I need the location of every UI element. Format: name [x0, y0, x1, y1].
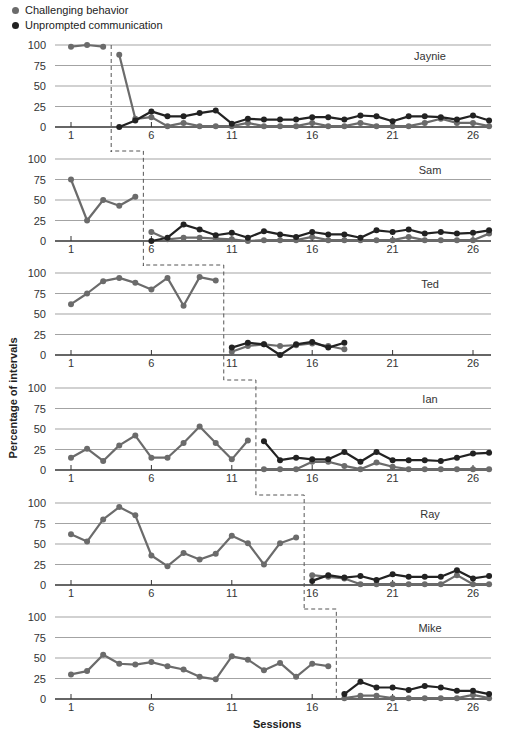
data-point: [422, 113, 428, 119]
data-point: [390, 118, 396, 124]
x-tick-label: 11: [226, 129, 237, 141]
participant-name: Ian: [422, 393, 437, 405]
data-point: [148, 108, 154, 114]
data-point: [341, 449, 347, 455]
y-tick-label: 100: [28, 267, 46, 279]
challenging-behavior-line: [71, 427, 248, 461]
x-tick-label: 26: [467, 357, 479, 369]
data-point: [261, 438, 267, 444]
data-point: [68, 44, 74, 50]
panel-mike: 02550751001611162126Mike: [28, 611, 492, 713]
data-point: [293, 123, 299, 129]
data-point: [341, 575, 347, 581]
data-point: [100, 652, 106, 658]
y-tick-label: 75: [34, 288, 46, 300]
data-point: [116, 661, 122, 667]
data-point: [357, 459, 363, 465]
x-tick-label: 11: [226, 587, 237, 599]
y-tick-label: 25: [34, 101, 46, 113]
x-tick-label: 11: [226, 357, 237, 369]
data-point: [197, 274, 203, 280]
data-point: [422, 574, 428, 580]
data-point: [213, 232, 219, 238]
y-tick-label: 25: [34, 559, 46, 571]
data-point: [68, 177, 74, 183]
data-point: [116, 124, 122, 130]
data-point: [68, 455, 74, 461]
data-point: [245, 340, 251, 346]
data-point: [341, 346, 347, 352]
x-tick-label: 26: [467, 701, 479, 713]
data-point: [406, 574, 412, 580]
data-point: [406, 466, 412, 472]
data-point: [438, 114, 444, 120]
data-point: [261, 117, 267, 123]
data-point: [357, 573, 363, 579]
x-tick-label: 26: [467, 243, 479, 255]
data-point: [261, 562, 267, 568]
data-point: [261, 466, 267, 472]
y-tick-label: 0: [40, 693, 46, 705]
data-point: [197, 227, 203, 233]
data-point: [309, 339, 315, 345]
y-tick-label: 75: [34, 632, 46, 644]
data-point: [438, 695, 444, 701]
x-tick-label: 26: [467, 472, 479, 484]
y-tick-label: 50: [34, 80, 46, 92]
data-point: [374, 449, 380, 455]
data-point: [406, 695, 412, 701]
x-tick-label: 6: [148, 129, 154, 141]
data-point: [277, 540, 283, 546]
data-point: [164, 275, 170, 281]
data-point: [293, 341, 299, 347]
y-tick-label: 25: [34, 329, 46, 341]
data-point: [116, 203, 122, 209]
data-point: [309, 578, 315, 584]
data-point: [197, 424, 203, 430]
y-tick-label: 100: [28, 497, 46, 509]
data-point: [374, 227, 380, 233]
data-point: [213, 277, 219, 283]
x-tick-label: 16: [306, 357, 318, 369]
data-point: [486, 581, 492, 587]
x-tick-label: 6: [148, 587, 154, 599]
data-point: [438, 237, 444, 243]
participant-name: Mike: [418, 622, 441, 634]
data-point: [357, 235, 363, 241]
data-point: [197, 110, 203, 116]
data-point: [148, 455, 154, 461]
data-point: [470, 237, 476, 243]
data-point: [470, 575, 476, 581]
data-point: [245, 540, 251, 546]
data-point: [454, 567, 460, 573]
data-point: [374, 123, 380, 129]
data-point: [293, 466, 299, 472]
data-point: [68, 531, 74, 537]
data-point: [116, 504, 122, 510]
data-point: [325, 572, 331, 578]
data-point: [229, 236, 235, 242]
data-point: [438, 229, 444, 235]
data-point: [470, 688, 476, 694]
data-point: [390, 229, 396, 235]
data-point: [116, 52, 122, 58]
y-tick-label: 50: [34, 308, 46, 320]
x-tick-label: 21: [386, 357, 398, 369]
data-point: [197, 674, 203, 680]
y-tick-label: 100: [28, 382, 46, 394]
data-point: [486, 117, 492, 123]
participant-name: Jaynie: [414, 50, 446, 62]
x-tick-label: 6: [148, 472, 154, 484]
x-tick-label: 1: [68, 243, 74, 255]
data-point: [374, 237, 380, 243]
data-point: [148, 286, 154, 292]
phase-change-line: [111, 45, 336, 699]
data-point: [213, 123, 219, 129]
data-point: [181, 235, 187, 241]
x-tick-label: 1: [68, 357, 74, 369]
data-point: [132, 117, 138, 123]
data-point: [261, 237, 267, 243]
y-tick-label: 75: [34, 60, 46, 72]
data-point: [390, 457, 396, 463]
data-point: [100, 44, 106, 50]
